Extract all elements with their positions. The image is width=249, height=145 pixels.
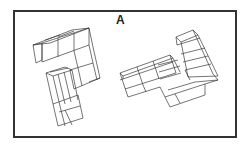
left-cube-figure	[33, 28, 100, 126]
cube-figures-drawing	[0, 0, 249, 145]
right-cube-figure	[120, 30, 218, 107]
